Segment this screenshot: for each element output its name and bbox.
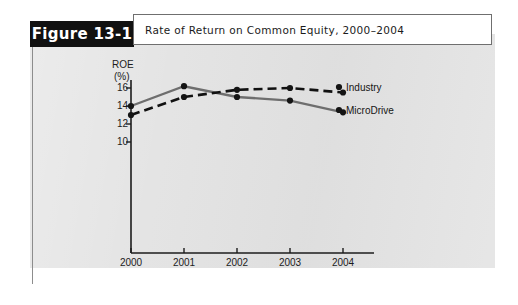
figure-number-tab: Figure 13-1 [30,21,134,47]
y-tick-label-12: 12 [108,118,128,129]
legend-label-microdrive: MicroDrive [346,105,394,116]
figure-title: Rate of Return on Common Equity, 2000–20… [134,24,404,36]
legend-label-industry: Industry [346,82,382,93]
x-tick-label-2000: 2000 [111,257,151,268]
figure-number-label: Figure 13-1 [32,25,132,43]
y-axis-title-line1: ROE [112,59,134,70]
left-margin-rule [32,22,33,284]
x-tick-label-2003: 2003 [270,257,310,268]
figure-container: Figure 13-1 Rate of Return on Common Equ… [0,0,518,305]
y-axis-title-line2: (%) [114,71,130,82]
x-tick-label-2002: 2002 [217,257,257,268]
y-tick-label-10: 10 [108,136,128,147]
y-tick-label-16: 16 [108,82,128,93]
y-tick-label-14: 14 [108,100,128,111]
x-tick-label-2004: 2004 [323,257,363,268]
figure-title-box: Rate of Return on Common Equity, 2000–20… [133,14,492,45]
x-tick-label-2001: 2001 [164,257,204,268]
figure-panel [30,34,495,268]
